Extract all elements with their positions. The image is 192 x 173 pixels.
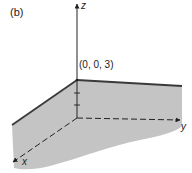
plane-diagram: (b) (0, 0, 3) z y x (0, 0, 192, 173)
point-marker (76, 79, 79, 82)
y-axis-label: y (181, 121, 186, 132)
panel-label: (b) (10, 6, 23, 18)
diagram-canvas (0, 0, 192, 173)
point-label: (0, 0, 3) (79, 59, 113, 70)
plane-region (12, 80, 182, 169)
z-axis-label: z (81, 0, 86, 11)
x-axis-label: x (22, 156, 27, 167)
